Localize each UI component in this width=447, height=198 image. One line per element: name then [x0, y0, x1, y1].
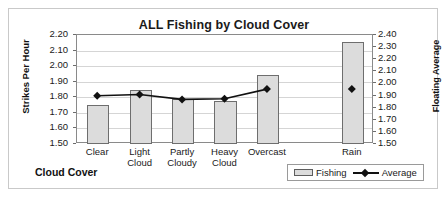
y-axis-tick-mark	[73, 112, 76, 113]
y-axis-tick-label: 1.80	[28, 91, 68, 101]
secondary-y-axis-tick-mark	[373, 143, 376, 144]
legend-entry-fishing[interactable]: Fishing	[294, 167, 347, 178]
y-axis-tick-label: 1.90	[28, 76, 68, 86]
bar[interactable]	[172, 99, 194, 144]
plot-area	[76, 34, 373, 143]
chart-legend: Fishing Average	[287, 164, 424, 181]
secondary-y-axis-tick-label: 1.90	[378, 90, 418, 100]
legend-label-average: Average	[382, 167, 417, 178]
y-axis-tick-label: 1.50	[28, 138, 68, 148]
y-axis-tick-mark	[73, 81, 76, 82]
secondary-y-axis-tick-mark	[373, 34, 376, 35]
x-axis-category-label: Rain	[327, 147, 377, 158]
chart-frame: ALL Fishing by Cloud Cover Strikes Per H…	[8, 8, 438, 189]
y-axis-tick-label: 2.10	[28, 45, 68, 55]
y-axis-tick-mark	[73, 65, 76, 66]
y-axis-tick-mark	[73, 96, 76, 97]
secondary-y-axis-tick-mark	[373, 119, 376, 120]
x-axis-category-label: Overcast	[242, 147, 292, 158]
secondary-y-axis-tick-label: 2.00	[378, 77, 418, 87]
y-axis-tick-label: 1.70	[28, 107, 68, 117]
secondary-y-axis-tick-label: 2.40	[378, 29, 418, 39]
secondary-y-axis-tick-mark	[373, 131, 376, 132]
secondary-y-axis-tick-label: 2.10	[378, 65, 418, 75]
chart-title: ALL Fishing by Cloud Cover	[9, 18, 439, 32]
secondary-y-axis-tick-mark	[373, 58, 376, 59]
bar[interactable]	[130, 90, 152, 144]
y-axis-tick-label: 2.20	[28, 29, 68, 39]
y-axis-tick-mark	[73, 34, 76, 35]
secondary-y-axis-tick-label: 1.50	[378, 138, 418, 148]
gridline	[77, 51, 372, 52]
secondary-y-axis-tick-mark	[373, 82, 376, 83]
gridline	[77, 97, 372, 98]
secondary-y-axis-tick-label: 1.60	[378, 126, 418, 136]
legend-entry-average[interactable]: Average	[353, 167, 417, 178]
bar[interactable]	[87, 105, 109, 144]
secondary-y-axis-title: Floating Average	[431, 28, 441, 124]
secondary-y-axis-tick-mark	[373, 107, 376, 108]
bar[interactable]	[214, 101, 236, 144]
y-axis-tick-mark	[73, 127, 76, 128]
bar-swatch-icon	[294, 169, 313, 176]
secondary-y-axis-tick-mark	[373, 95, 376, 96]
bar[interactable]	[342, 42, 364, 144]
y-axis-tick-label: 1.60	[28, 122, 68, 132]
secondary-y-axis-tick-label: 2.20	[378, 53, 418, 63]
y-axis-tick-mark	[73, 50, 76, 51]
secondary-y-axis-tick-label: 2.30	[378, 41, 418, 51]
secondary-y-axis-tick-label: 1.80	[378, 102, 418, 112]
x-axis-title: Cloud Cover	[35, 166, 97, 178]
y-axis-tick-label: 2.00	[28, 60, 68, 70]
legend-label-fishing: Fishing	[316, 167, 347, 178]
y-axis-tick-mark	[73, 143, 76, 144]
secondary-y-axis-tick-mark	[373, 46, 376, 47]
bar[interactable]	[257, 75, 279, 144]
secondary-y-axis-tick-label: 1.70	[378, 114, 418, 124]
line-marker-icon	[353, 168, 379, 177]
gridline	[77, 82, 372, 83]
gridline	[77, 66, 372, 67]
secondary-y-axis-tick-mark	[373, 70, 376, 71]
